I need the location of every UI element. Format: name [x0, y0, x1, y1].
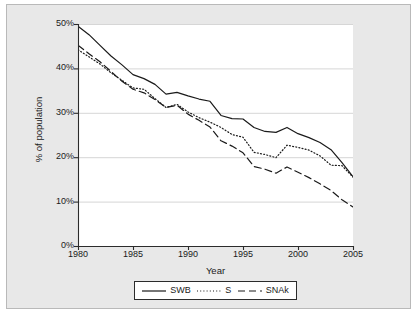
- y-tick-label: 10%: [56, 197, 74, 206]
- y-tick-label: 30%: [56, 108, 74, 117]
- chart-figure: 0%10%20%30%40%50% 1980198519901995200020…: [0, 0, 417, 316]
- y-tick-label: 50%: [56, 19, 74, 28]
- x-axis-label: Year: [78, 265, 353, 276]
- legend-entry-swb[interactable]: SWB: [142, 286, 191, 295]
- y-tick-label: 40%: [56, 63, 74, 72]
- y-axis-label: % of population: [33, 70, 44, 190]
- legend-label: SNAk: [266, 286, 289, 295]
- legend-key-solid-icon: [142, 287, 166, 295]
- legend-entry-s[interactable]: S: [197, 286, 231, 295]
- y-tick-label: 20%: [56, 152, 74, 161]
- x-tick-label: 1995: [233, 250, 253, 259]
- x-tick-label: 2005: [343, 250, 363, 259]
- legend-label: SWB: [170, 286, 191, 295]
- x-tick-label: 1990: [178, 250, 198, 259]
- legend-label: S: [225, 286, 231, 295]
- x-tick-label: 1980: [68, 250, 88, 259]
- x-tick-label: 1985: [123, 250, 143, 259]
- chart-legend: SWBSSNAk: [134, 281, 297, 300]
- x-tick-label: 2000: [288, 250, 308, 259]
- legend-entry-snak[interactable]: SNAk: [238, 286, 289, 295]
- legend-key-dashed-icon: [238, 287, 262, 295]
- legend-key-dotted-icon: [197, 287, 221, 295]
